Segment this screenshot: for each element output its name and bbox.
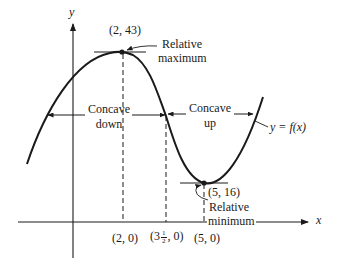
y-axis-label: y	[69, 6, 74, 19]
minimum-annotation-line2: minimum	[207, 215, 256, 228]
guide-lines	[123, 54, 204, 222]
x-axis-label: x	[316, 214, 321, 227]
minimum-coordinate-label: (5, 16)	[208, 186, 240, 199]
maximum-coordinate-label: (2, 43)	[109, 24, 141, 37]
x-tick-label-3-5: (312, 0)	[150, 230, 184, 245]
fraction-denominator: 2	[161, 238, 167, 245]
minimum-pointer	[196, 185, 208, 200]
concave-down-label-line1: Concave	[86, 103, 132, 116]
x-tick-prefix: (3	[150, 229, 160, 243]
curve-label: y = f(x)	[270, 121, 306, 134]
x-tick-label-5: (5, 0)	[194, 232, 220, 245]
concave-up-label-line2: up	[187, 117, 233, 130]
x-tick-suffix: , 0)	[168, 229, 184, 243]
one-half-fraction: 12	[161, 230, 167, 245]
maximum-point	[119, 49, 124, 54]
concave-up-label-line1: Concave	[187, 102, 233, 115]
minimum-annotation-line1: Relative	[209, 201, 249, 214]
minimum-point	[201, 180, 206, 185]
x-tick-label-2: (2, 0)	[112, 232, 138, 245]
maximum-annotation-line2: maximum	[158, 52, 207, 65]
concave-down-label-line2: down	[86, 118, 132, 131]
maximum-annotation-line1: Relative	[162, 38, 202, 51]
curve-label-pointer	[255, 121, 268, 127]
maximum-pointer	[127, 46, 157, 50]
function-graph-diagram: y x (2, 43) Relative maximum (5, 16) Rel…	[0, 0, 339, 272]
